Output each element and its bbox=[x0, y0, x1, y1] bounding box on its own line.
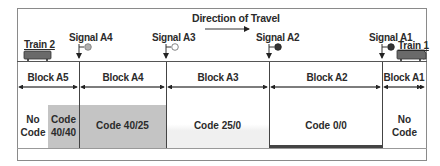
signal-a4-icon bbox=[79, 44, 91, 58]
block-a5-label: Block A5 bbox=[28, 72, 69, 83]
signal-a2-label: Signal A2 bbox=[256, 32, 299, 43]
train-2-icon bbox=[24, 51, 51, 61]
block-a3-label: Block A3 bbox=[198, 72, 239, 83]
block-a4-label: Block A4 bbox=[103, 72, 144, 83]
signal-a1-icon bbox=[382, 44, 394, 58]
signal-a2-icon bbox=[269, 44, 281, 58]
signal-a3-icon bbox=[166, 44, 178, 58]
code-25-0: Code 25/0 bbox=[166, 119, 269, 132]
diagram-graphics bbox=[0, 0, 440, 166]
code-no-code-a5: No Code bbox=[20, 113, 46, 139]
code-40-25: Code 40/25 bbox=[79, 119, 166, 132]
signal-a3-label: Signal A3 bbox=[152, 32, 195, 43]
code-no-code-a1: No Code bbox=[383, 113, 426, 139]
train-2-label: Train 2 bbox=[24, 39, 55, 50]
signal-a4-label: Signal A4 bbox=[69, 32, 112, 43]
direction-of-travel-label: Direction of Travel bbox=[192, 12, 280, 24]
signal-a1-label: Signal A1 bbox=[369, 32, 412, 43]
train-1-icon bbox=[397, 50, 426, 61]
code-40-40: Code 40/40 bbox=[48, 113, 79, 139]
code-0-0: Code 0/0 bbox=[270, 119, 382, 132]
block-a2-label: Block A2 bbox=[307, 72, 348, 83]
block-a1-label: Block A1 bbox=[384, 72, 425, 83]
